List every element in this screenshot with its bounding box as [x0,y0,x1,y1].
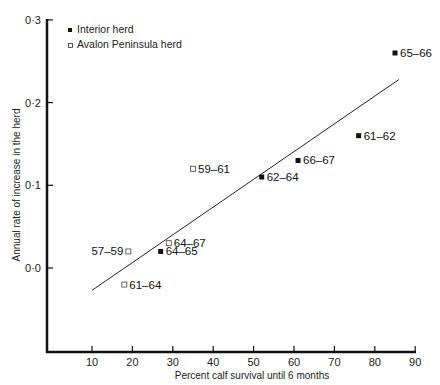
x-tick-label: 70 [328,356,340,368]
y-tick-label: 0·2 [25,97,41,109]
point-label: 57–59 [91,245,123,257]
x-tick-label: 30 [167,356,179,368]
y-axis-title: Annual rate of increase in the herd [11,109,22,262]
point-label: 64–67 [174,237,206,249]
scatter-chart: 0·00·10·20·3 102030405060708090 Percent … [0,0,440,385]
x-tick-label: 20 [126,356,138,368]
x-tick-label: 40 [207,356,219,368]
point-label: 62–64 [267,171,300,183]
point-label: 59–61 [198,163,230,175]
x-tick-label: 80 [369,356,381,368]
y-axis-ticks: 0·00·10·20·3 [25,14,53,274]
open-square-marker-icon [122,282,127,287]
legend-open-square-icon [69,44,73,48]
legend: Interior herd Avalon Peninsula herd [68,23,182,50]
y-tick-label: 0·1 [25,179,41,191]
legend-label-interior: Interior herd [77,23,134,35]
open-square-marker-icon [126,249,131,254]
filled-square-marker-icon [158,249,163,254]
open-square-marker-icon [191,166,196,171]
x-tick-label: 90 [409,356,421,368]
point-label: 66–67 [303,154,335,166]
legend-filled-square-icon [68,28,72,32]
point-label: 65–66 [400,47,432,59]
open-square-marker-icon [166,241,171,246]
point-label: 61–64 [129,279,162,291]
legend-label-avalon: Avalon Peninsula herd [77,38,182,50]
filled-square-marker-icon [296,158,301,163]
filled-square-marker-icon [393,50,398,55]
filled-square-marker-icon [259,175,264,180]
x-tick-label: 60 [288,356,300,368]
y-tick-label: 0·3 [25,14,41,26]
data-points: 65–6661–6266–6762–6464–6559–6164–6757–59… [91,47,432,291]
x-tick-label: 50 [247,356,259,368]
x-axis-ticks: 102030405060708090 [86,346,421,368]
regression-line [92,79,399,290]
filled-square-marker-icon [356,133,361,138]
point-label: 61–62 [364,130,396,142]
y-tick-label: 0·0 [25,262,41,274]
x-axis-title: Percent calf survival until 6 months [175,370,330,381]
axes [46,19,416,353]
x-tick-label: 10 [86,356,98,368]
